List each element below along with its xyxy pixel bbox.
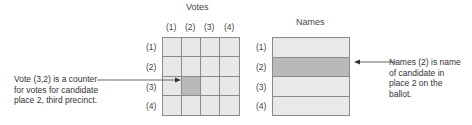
names-annotation-line: of candidate in	[389, 68, 461, 79]
votes-row-label: (1)	[146, 42, 156, 52]
votes-annotation-line: Vote (3,2) is a counter	[14, 74, 98, 85]
names-title: Names	[296, 17, 325, 27]
votes-cell	[201, 38, 220, 57]
names-row	[273, 97, 349, 116]
names-row	[273, 77, 349, 97]
votes-cell	[201, 77, 220, 96]
names-row-highlighted	[273, 58, 349, 78]
votes-cell	[220, 77, 239, 96]
votes-row-label: (2)	[146, 62, 156, 72]
votes-cell	[220, 38, 239, 57]
votes-col-label: (3)	[204, 22, 214, 32]
votes-cell	[201, 57, 220, 76]
names-row-label: (2)	[256, 62, 266, 72]
votes-title: Votes	[186, 2, 209, 12]
votes-annotation: Vote (3,2) is a counter for votes for ca…	[14, 74, 98, 106]
arrow-right-icon	[95, 76, 185, 84]
votes-row-label: (4)	[146, 101, 156, 111]
votes-cell	[182, 96, 201, 115]
votes-annotation-line: for votes for candidate	[14, 85, 98, 96]
names-annotation-line: Names (2) is name	[389, 57, 461, 68]
votes-cell	[220, 96, 239, 115]
names-annotation-line: place 2 on the	[389, 78, 461, 89]
names-row	[273, 38, 349, 58]
names-row-label: (3)	[256, 82, 266, 92]
votes-col-label: (2)	[185, 22, 195, 32]
names-row-label: (1)	[256, 42, 266, 52]
votes-cell	[163, 38, 182, 57]
votes-cell	[163, 96, 182, 115]
names-annotation: Names (2) is name of candidate in place …	[389, 57, 461, 99]
names-annotation-line: ballot.	[389, 89, 461, 100]
votes-annotation-line: place 2, third precinct.	[14, 95, 98, 106]
votes-cell	[201, 96, 220, 115]
votes-col-label: (4)	[224, 22, 234, 32]
votes-col-label: (1)	[166, 22, 176, 32]
votes-cell	[182, 57, 201, 76]
names-array	[272, 37, 350, 116]
votes-cell	[220, 57, 239, 76]
votes-cell	[163, 57, 182, 76]
names-row-label: (4)	[256, 101, 266, 111]
votes-cell	[182, 38, 201, 57]
